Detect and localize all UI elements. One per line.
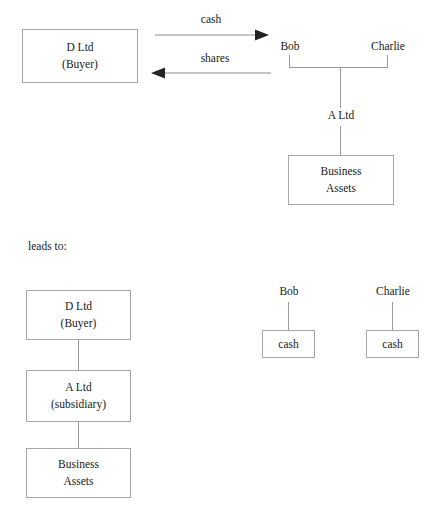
- leads-to-label: leads to:: [28, 239, 67, 254]
- bob-cash-box: cash: [262, 330, 315, 358]
- subsidiary-to-assets-connector: [78, 422, 79, 448]
- cash-arrow: [155, 27, 271, 43]
- top-a-ltd-label: A Ltd: [316, 108, 366, 123]
- bracket-to-a-ltd-connector: [340, 67, 341, 108]
- top-business-assets-box: Business Assets: [288, 155, 394, 205]
- bottom-business-assets-line1: Business: [58, 456, 99, 473]
- shareholders-bracket-bar: [289, 67, 388, 68]
- top-buyer-box-line2: (Buyer): [62, 56, 98, 73]
- bottom-shareholder-bob-label: Bob: [268, 284, 310, 299]
- shares-arrow-label: shares: [186, 52, 244, 64]
- bottom-shareholder-charlie-label: Charlie: [366, 284, 420, 299]
- bob-cash-box-label: cash: [278, 336, 298, 353]
- top-shareholder-bob-label: Bob: [270, 39, 310, 54]
- a-ltd-to-assets-connector: [340, 126, 341, 156]
- charlie-cash-box: cash: [366, 330, 419, 358]
- top-business-assets-line2: Assets: [326, 180, 356, 197]
- charlie-cash-box-label: cash: [382, 336, 402, 353]
- top-buyer-box-line1: D Ltd: [66, 39, 93, 56]
- bottom-business-assets-box: Business Assets: [26, 448, 131, 498]
- bottom-buyer-box: D Ltd (Buyer): [26, 290, 131, 340]
- diagram-canvas: D Ltd (Buyer) cash shares Bob Charlie A …: [0, 0, 442, 520]
- cash-arrow-label: cash: [188, 13, 234, 25]
- buyer-to-subsidiary-connector: [78, 340, 79, 370]
- top-business-assets-line1: Business: [321, 163, 362, 180]
- top-buyer-box: D Ltd (Buyer): [22, 29, 138, 83]
- bottom-subsidiary-box-line2: (subsidiary): [51, 396, 106, 413]
- bottom-subsidiary-box: A Ltd (subsidiary): [26, 370, 131, 422]
- top-shareholder-charlie-label: Charlie: [362, 39, 414, 54]
- charlie-to-cash-connector: [392, 302, 393, 330]
- bottom-buyer-box-line1: D Ltd: [65, 298, 92, 315]
- shares-arrow: [149, 65, 271, 81]
- bottom-business-assets-line2: Assets: [63, 473, 93, 490]
- bottom-buyer-box-line2: (Buyer): [61, 315, 97, 332]
- bottom-subsidiary-box-line1: A Ltd: [65, 379, 92, 396]
- bob-to-cash-connector: [288, 302, 289, 330]
